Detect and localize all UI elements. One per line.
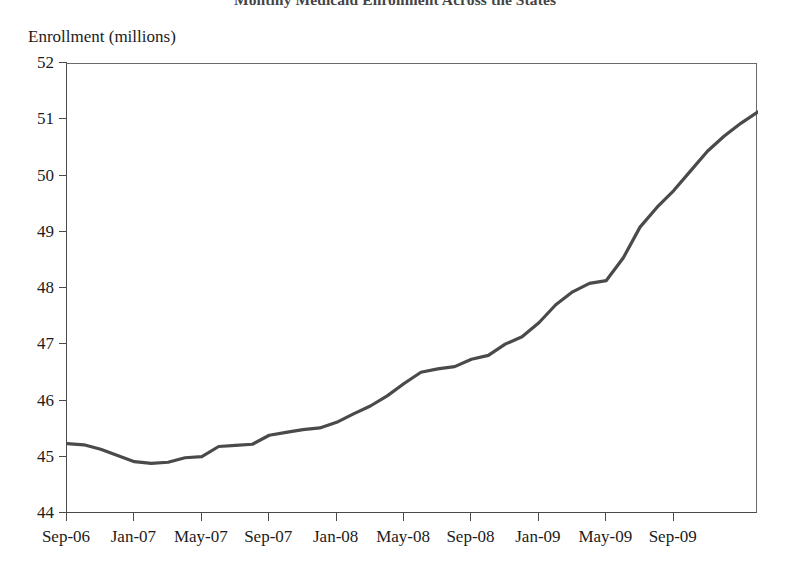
x-tick-mark [673, 513, 674, 521]
x-tick-mark [538, 513, 539, 521]
y-tick-label: 52 [16, 54, 54, 71]
series-polyline [67, 112, 758, 464]
x-tick-mark [268, 513, 269, 521]
x-tick-label: Sep-09 [613, 528, 733, 545]
x-tick-mark [605, 513, 606, 521]
y-tick-label: 49 [16, 223, 54, 240]
y-tick-label: 47 [16, 335, 54, 352]
y-tick-label: 46 [16, 392, 54, 409]
y-tick-label: 51 [16, 110, 54, 127]
x-tick-mark [66, 513, 67, 521]
y-tick-label: 48 [16, 279, 54, 296]
enrollment-line-series [67, 64, 758, 514]
y-axis-label: Enrollment (millions) [28, 27, 176, 47]
x-tick-mark [403, 513, 404, 521]
chart-title: Monthly Medicaid Enrollment Across the S… [0, 0, 790, 9]
chart-figure: Monthly Medicaid Enrollment Across the S… [0, 0, 790, 572]
y-tick-label: 44 [16, 504, 54, 521]
y-tick-label: 45 [16, 448, 54, 465]
x-tick-mark [470, 513, 471, 521]
x-tick-mark [133, 513, 134, 521]
x-tick-mark [336, 513, 337, 521]
x-tick-mark [201, 513, 202, 521]
plot-area [66, 63, 757, 513]
y-tick-label: 50 [16, 167, 54, 184]
